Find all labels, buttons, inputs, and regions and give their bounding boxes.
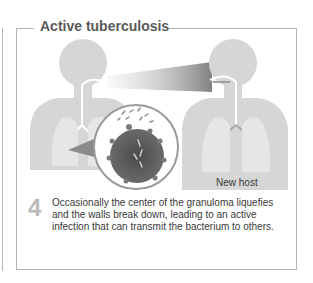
panel-title: Active tuberculosis	[40, 18, 169, 34]
new-host-label: New host	[216, 177, 258, 188]
step-description: Occasionally the center of the granuloma…	[52, 197, 292, 233]
step-number: 4	[28, 196, 41, 220]
airborne-spray	[108, 62, 212, 92]
magnified-granuloma	[94, 105, 178, 189]
transmission-illustration	[0, 0, 313, 283]
